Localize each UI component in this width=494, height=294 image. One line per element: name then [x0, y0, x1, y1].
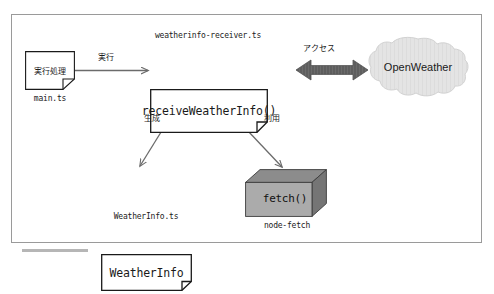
node-main-ts[interactable]: 実行処理: [25, 51, 75, 90]
caption-node-fetch: node-fetch: [237, 221, 337, 230]
node-node-fetch[interactable]: fetch(): [245, 169, 327, 217]
node-weatherinfo-label: WeatherInfo: [101, 254, 192, 294]
edge-label-execute: 実行: [98, 51, 114, 62]
edge-label-use: 利用: [264, 112, 280, 123]
node-node-fetch-label: fetch(): [245, 182, 325, 214]
edge-label-generate: 生成: [144, 112, 160, 123]
node-weatherinfo-receiver-label: receiveWeatherInfo(): [150, 89, 268, 137]
caption-main-ts: main.ts: [20, 94, 80, 103]
caption-weatherinfo-receiver: weatherinfo-receiver.ts: [148, 31, 268, 40]
edge-label-access: アクセス: [303, 42, 335, 53]
node-main-ts-label: 実行処理: [25, 51, 75, 95]
node-weatherinfo[interactable]: WeatherInfo: [101, 254, 192, 291]
node-openweather[interactable]: OpenWeather: [366, 36, 470, 98]
node-weatherinfo-receiver[interactable]: receiveWeatherInfo(): [150, 89, 268, 133]
node-openweather-label: OpenWeather: [366, 36, 470, 98]
caption-weatherinfo: WeatherInfo.ts: [96, 212, 196, 221]
page-edge-artifact: [22, 249, 88, 252]
edge-receiver-to-openweather: [296, 57, 368, 83]
